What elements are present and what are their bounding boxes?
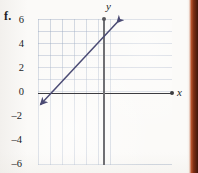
y-tick-label-6: 6 (8, 15, 24, 25)
y-tick-label-neg6: –6 (6, 159, 22, 169)
x-axis-endpoint-dot (170, 91, 174, 95)
book-spine-stripe (187, 0, 198, 173)
y-tick-label-neg2: –2 (6, 111, 22, 121)
y-tick-label-2: 2 (8, 63, 24, 73)
y-axis-label: y (106, 0, 111, 12)
y-tick-label-neg4: –4 (6, 135, 22, 145)
y-axis-endpoint-dot (102, 17, 106, 21)
y-tick-label-0: 0 (8, 87, 24, 97)
x-axis-line (38, 93, 172, 94)
y-tick-label-4: 4 (8, 39, 24, 49)
x-axis-label: x (177, 86, 182, 98)
y-axis-line (103, 19, 105, 165)
graph-figure: f. y x 6 4 2 0 –2 –4 –6 (0, 0, 198, 173)
